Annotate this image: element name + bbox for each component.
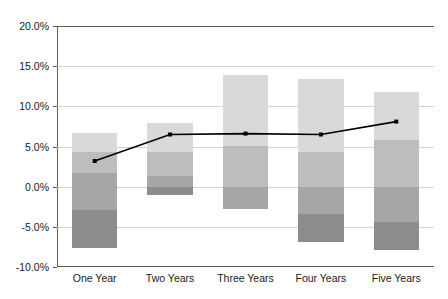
line-path bbox=[95, 122, 397, 161]
x-axis-label: Four Years bbox=[283, 272, 358, 285]
y-axis-tick-label: 20.0% bbox=[0, 21, 49, 31]
line-marker bbox=[394, 120, 398, 124]
line-series bbox=[57, 26, 434, 267]
x-axis-label: Two Years bbox=[132, 272, 207, 285]
y-axis-tick-label: 0.0% bbox=[0, 182, 49, 192]
chart-container: 20.0%15.0%10.0%5.0%0.0%-5.0%-10.0% One Y… bbox=[0, 0, 448, 299]
line-marker bbox=[168, 133, 172, 137]
x-axis-labels: One YearTwo YearsThree YearsFour YearsFi… bbox=[57, 272, 434, 292]
line-marker bbox=[93, 159, 97, 163]
y-axis-tick-label: 15.0% bbox=[0, 61, 49, 71]
plot-area bbox=[57, 26, 434, 267]
y-axis-tick-label: -5.0% bbox=[0, 222, 49, 232]
y-axis-tick-label: -10.0% bbox=[0, 262, 49, 272]
y-axis-tick-label: 10.0% bbox=[0, 101, 49, 111]
line-marker bbox=[319, 133, 323, 137]
y-axis-tick-label: 5.0% bbox=[0, 142, 49, 152]
x-axis-label: Three Years bbox=[208, 272, 283, 285]
x-axis-label: One Year bbox=[57, 272, 132, 285]
y-axis-tick-mark bbox=[53, 267, 57, 268]
line-marker bbox=[244, 132, 248, 136]
x-axis-label: Five Years bbox=[359, 272, 434, 285]
